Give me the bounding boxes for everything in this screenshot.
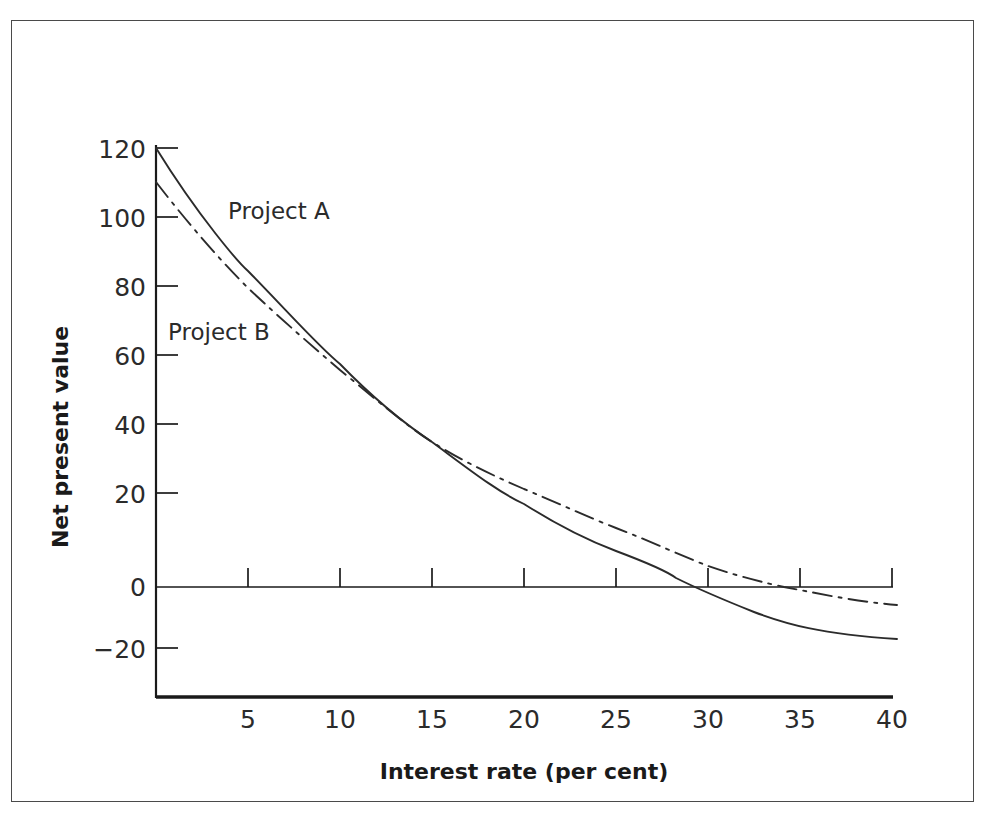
x-axis-title: Interest rate (per cent) — [380, 759, 669, 784]
series-annotation-project-b: Project B — [168, 319, 270, 345]
y-tick-label: 60 — [114, 342, 146, 371]
y-tick-label: 120 — [98, 135, 146, 164]
x-tick-label: 25 — [600, 705, 632, 734]
x-axis-ticks — [248, 568, 892, 587]
y-tick-label: 100 — [98, 204, 146, 233]
y-tick-label: 20 — [114, 480, 146, 509]
y-tick-label: 0 — [130, 573, 146, 602]
x-tick-label: 35 — [784, 705, 816, 734]
series-annotation-project-a: Project A — [228, 198, 330, 224]
y-tick-label: −20 — [93, 635, 146, 664]
chart-plot-area: 120 100 80 60 40 20 0 −20 5 10 15 20 25 … — [0, 0, 989, 825]
chart-figure: 120 100 80 60 40 20 0 −20 5 10 15 20 25 … — [0, 0, 989, 825]
y-tick-label: 80 — [114, 273, 146, 302]
series-line-project-b — [156, 182, 897, 605]
x-tick-label: 10 — [324, 705, 356, 734]
y-tick-label: 40 — [114, 411, 146, 440]
x-tick-label: 5 — [240, 705, 256, 734]
x-tick-label: 30 — [692, 705, 724, 734]
y-axis-ticks — [156, 148, 178, 648]
x-tick-labels: 5 10 15 20 25 30 35 40 — [240, 705, 908, 734]
y-tick-labels: 120 100 80 60 40 20 0 −20 — [93, 135, 146, 664]
y-axis-title: Net present value — [48, 326, 73, 548]
x-tick-label: 20 — [508, 705, 540, 734]
x-tick-label: 15 — [416, 705, 448, 734]
x-tick-label: 40 — [876, 705, 908, 734]
